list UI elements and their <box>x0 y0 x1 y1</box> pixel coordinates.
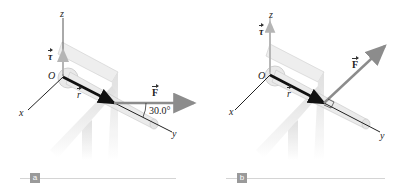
position-label: r <box>77 90 81 100</box>
y-axis-label: y <box>380 131 384 141</box>
force-symbol: F <box>352 60 358 70</box>
force-label: F <box>352 60 358 70</box>
origin-label: O <box>48 71 55 81</box>
y-axis-label: y <box>172 129 176 139</box>
panel-tag-b: b <box>237 173 247 183</box>
panel-b: z τ O r x F y b <box>204 0 408 187</box>
panel-tag-a: a <box>30 173 40 183</box>
force-label: F <box>152 88 158 98</box>
position-symbol: r <box>287 89 291 99</box>
panel-a: z τ O r x F 30.0° y a <box>0 0 204 187</box>
z-axis-label: z <box>60 9 64 19</box>
panel-a-drawing <box>0 0 204 187</box>
position-label: r <box>287 89 291 99</box>
position-symbol: r <box>77 90 81 100</box>
origin-label: O <box>258 71 265 81</box>
panel-a-rule <box>40 178 176 179</box>
panel-b-rule-left <box>226 178 237 179</box>
panel-a-rule-left <box>20 178 30 179</box>
angle-label: 30.0° <box>149 106 171 116</box>
torque-label: τ <box>48 52 52 62</box>
panel-b-rule <box>247 178 385 179</box>
torque-symbol: τ <box>259 27 263 37</box>
torque-symbol: τ <box>48 52 52 62</box>
force-symbol: F <box>152 88 158 98</box>
torque-label: τ <box>259 27 263 37</box>
z-axis-label: z <box>269 10 273 20</box>
x-axis-label: x <box>229 107 233 117</box>
x-axis-label: x <box>19 108 23 118</box>
panel-b-drawing <box>204 0 408 187</box>
